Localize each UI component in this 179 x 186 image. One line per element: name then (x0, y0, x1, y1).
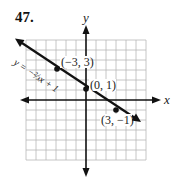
point-0-1 (83, 86, 89, 92)
coordinate-graph: x y (−3, 3) (0, 1) (3, −1) y = −⅔x + 1 (0, 0, 179, 186)
y-axis-arrow-down-icon (83, 168, 90, 177)
x-axis (20, 97, 161, 104)
y-axis (83, 25, 90, 177)
y-axis-label: y (81, 10, 89, 25)
y-axis-arrow-up-icon (83, 25, 90, 34)
point-label-neg3-3: (−3, 3) (61, 55, 94, 69)
x-axis-arrow-left-icon (20, 97, 29, 104)
point-label-3-neg1: (3, −1) (101, 113, 134, 127)
x-axis-arrow-right-icon (152, 97, 161, 104)
x-axis-label: x (163, 92, 170, 107)
point-3-neg1 (113, 107, 119, 113)
point-label-0-1: (0, 1) (90, 78, 116, 92)
point-neg3-3 (54, 66, 60, 72)
